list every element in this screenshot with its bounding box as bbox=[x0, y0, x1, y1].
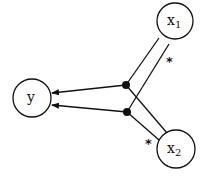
node-x2: x2 bbox=[157, 130, 195, 168]
edge-x2-junction2 bbox=[127, 112, 159, 140]
arrow-junction2-y bbox=[52, 105, 127, 112]
node-y: y bbox=[13, 79, 51, 117]
junction-dot-2 bbox=[123, 108, 131, 116]
node-x1: x1 bbox=[157, 3, 193, 39]
asterisk-x1: * bbox=[166, 54, 173, 69]
node-y-label: y bbox=[26, 89, 35, 105]
edge-x1-junction1 bbox=[126, 38, 159, 85]
diagram-svg: y x1 x2 * * bbox=[0, 0, 207, 179]
asterisk-x2: * bbox=[145, 136, 152, 151]
arrow-junction1-y bbox=[52, 85, 126, 93]
diagram-canvas: y x1 x2 * * bbox=[0, 0, 207, 179]
junction-dot-1 bbox=[122, 81, 130, 89]
edge-x2-junction1 bbox=[126, 85, 167, 133]
